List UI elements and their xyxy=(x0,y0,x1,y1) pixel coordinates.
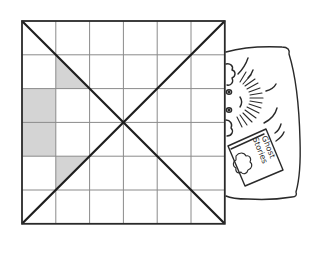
character-mouth xyxy=(240,97,242,107)
shaded-cell xyxy=(22,122,56,156)
pillow-crease xyxy=(276,132,284,141)
shaded-cell xyxy=(22,89,56,123)
pillow-crease xyxy=(275,124,281,133)
figure-canvas: Ghost Stories xyxy=(0,0,315,255)
pillow-crease xyxy=(266,84,276,91)
character-pupil-right xyxy=(228,109,230,111)
pillow-crease xyxy=(238,58,248,74)
character-hair xyxy=(226,64,235,85)
character-hair xyxy=(226,120,232,136)
character-pupil-left xyxy=(228,91,230,93)
puzzle-figure: Ghost Stories xyxy=(0,0,315,255)
pillow-character-illustration xyxy=(226,47,300,200)
pillow-crease xyxy=(264,108,277,123)
